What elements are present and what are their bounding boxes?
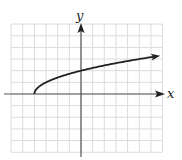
axes bbox=[4, 23, 165, 157]
grid bbox=[11, 24, 162, 152]
x-axis-label: x bbox=[167, 86, 175, 101]
y-axis-label: y bbox=[75, 8, 84, 23]
curve bbox=[34, 54, 160, 94]
graph: y x bbox=[0, 0, 182, 160]
